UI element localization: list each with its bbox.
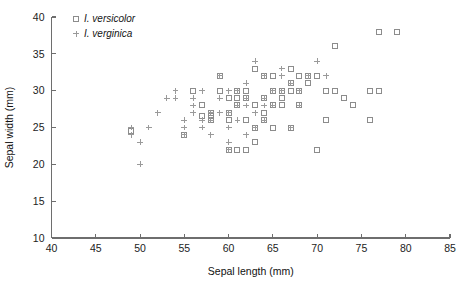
data-point-square	[226, 118, 231, 123]
data-point-square	[368, 88, 373, 93]
data-point-plus	[217, 95, 223, 101]
x-axis-tick-label: 60	[223, 242, 235, 254]
series-i-versicolor	[129, 29, 400, 152]
data-point-plus	[323, 73, 329, 79]
scatter-plot-figure: I. versicolorI. verginica 40455055606570…	[0, 0, 466, 290]
data-point-plus	[173, 95, 179, 101]
x-axis-tick-label: 85	[444, 242, 456, 254]
data-point-square	[324, 88, 329, 93]
legend-item-label: I. verginica	[84, 28, 133, 39]
data-point-plus	[137, 161, 143, 167]
data-point-square	[377, 29, 382, 34]
data-point-plus	[261, 103, 267, 109]
chart-legend: I. versicolorI. verginica	[73, 13, 136, 39]
data-point-square	[288, 88, 293, 93]
legend-marker-square	[74, 16, 79, 21]
data-point-square	[270, 73, 275, 78]
x-axis-tick-label: 50	[134, 242, 146, 254]
data-point-square	[226, 96, 231, 101]
data-point-square	[217, 88, 222, 93]
data-point-square	[244, 118, 249, 123]
x-axis-tick-label: 40	[46, 242, 58, 254]
data-point-plus	[252, 58, 258, 64]
data-point-plus	[199, 125, 205, 131]
data-point-square	[332, 44, 337, 49]
data-point-square	[253, 66, 258, 71]
data-point-square	[297, 73, 302, 78]
data-point-plus	[217, 110, 223, 116]
data-point-plus	[243, 103, 249, 109]
data-point-plus	[235, 117, 241, 123]
data-point-plus	[208, 132, 214, 138]
x-axis-title: Sepal length (mm)	[208, 265, 294, 277]
data-point-plus	[279, 66, 285, 72]
y-axis-tick-label: 20	[33, 158, 45, 170]
data-point-plus	[155, 110, 161, 116]
data-point-plus	[181, 125, 187, 131]
data-point-plus	[226, 88, 232, 94]
y-axis-tick-label: 40	[33, 11, 45, 23]
data-point-plus	[314, 58, 320, 64]
data-point-square	[324, 118, 329, 123]
data-point-square	[244, 147, 249, 152]
legend-marker-plus	[73, 31, 79, 37]
data-point-plus	[226, 139, 232, 145]
legend-item: I. versicolor	[74, 13, 136, 24]
data-point-plus	[190, 103, 196, 109]
data-point-square	[235, 147, 240, 152]
legend-item-label: I. versicolor	[84, 13, 136, 24]
data-point-square	[315, 147, 320, 152]
data-point-square	[244, 88, 249, 93]
x-axis-tick-label: 45	[90, 242, 102, 254]
x-axis-tick-label: 80	[400, 242, 412, 254]
y-axis-tick-label: 25	[33, 121, 45, 133]
axis-labels-layer: 4045505560657075808510152025303540Sepal …	[3, 11, 456, 277]
axes-layer	[52, 17, 451, 238]
x-axis-tick-label: 65	[267, 242, 279, 254]
data-point-square	[350, 103, 355, 108]
data-point-square	[191, 88, 196, 93]
data-point-square	[368, 118, 373, 123]
data-point-plus	[137, 139, 143, 145]
data-point-square	[394, 29, 399, 34]
y-axis-tick-label: 10	[33, 232, 45, 244]
plot-canvas: I. versicolorI. verginica 40455055606570…	[0, 0, 466, 290]
x-axis-tick-label: 70	[311, 242, 323, 254]
data-point-square	[279, 96, 284, 101]
data-point-square	[200, 103, 205, 108]
data-point-square	[270, 125, 275, 130]
x-axis-tick-label: 75	[356, 242, 368, 254]
y-axis-tick-label: 30	[33, 84, 45, 96]
data-point-square	[253, 103, 258, 108]
x-axis-tick-label: 55	[178, 242, 190, 254]
data-point-plus	[252, 110, 258, 116]
data-point-plus	[181, 117, 187, 123]
data-point-plus	[226, 125, 232, 131]
data-point-square	[262, 110, 267, 115]
data-point-plus	[190, 110, 196, 116]
data-point-square	[377, 88, 382, 93]
data-point-plus	[190, 95, 196, 101]
data-point-plus	[146, 125, 152, 131]
data-point-plus	[173, 88, 179, 94]
data-point-square	[253, 140, 258, 145]
y-axis-title: Sepal width (mm)	[3, 87, 15, 169]
data-point-square	[315, 73, 320, 78]
data-point-plus	[279, 73, 285, 79]
data-points-layer	[128, 29, 399, 167]
data-point-square	[341, 96, 346, 101]
y-axis-tick-label: 35	[33, 48, 45, 60]
data-point-square	[235, 96, 240, 101]
data-point-square	[306, 81, 311, 86]
series-i-verginica	[128, 58, 329, 167]
data-point-square	[332, 88, 337, 93]
data-point-square	[279, 103, 284, 108]
data-point-plus	[243, 132, 249, 138]
legend-item: I. verginica	[73, 28, 133, 39]
data-point-plus	[164, 95, 170, 101]
data-point-plus	[199, 88, 205, 94]
y-axis-tick-label: 15	[33, 195, 45, 207]
data-point-square	[288, 66, 293, 71]
data-point-plus	[243, 80, 249, 86]
